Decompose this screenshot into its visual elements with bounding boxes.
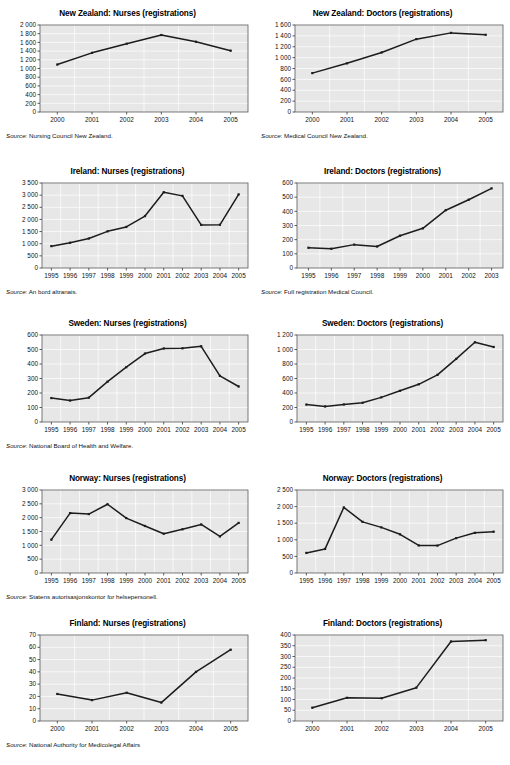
svg-text:2 000: 2 000 — [22, 514, 38, 521]
svg-text:1 000: 1 000 — [277, 536, 293, 543]
svg-text:400: 400 — [282, 389, 293, 396]
svg-text:1996: 1996 — [324, 272, 339, 279]
data-point — [485, 34, 487, 36]
plot-area-finland-nurses: 010203040506070200020012002200320042005 — [4, 631, 251, 739]
svg-text:2001: 2001 — [157, 272, 172, 279]
svg-text:1 000: 1 000 — [22, 542, 38, 549]
svg-text:1 500: 1 500 — [277, 519, 293, 526]
data-point — [230, 50, 232, 52]
chart-title-norway-nurses: Norway: Nurses (registrations) — [4, 465, 251, 486]
plot-new-zealand-doctors: 02004006008001 0001 2001 4001 6002000200… — [259, 21, 509, 130]
svg-text:2003: 2003 — [194, 272, 209, 279]
data-point — [415, 687, 417, 689]
data-point — [163, 533, 165, 535]
svg-text:1999: 1999 — [374, 577, 389, 584]
data-point — [415, 38, 417, 40]
chart-cell-new-zealand-doctors: New Zealand: Doctors (registrations)0200… — [255, 0, 510, 158]
data-point — [181, 347, 183, 349]
svg-text:0: 0 — [287, 717, 291, 724]
data-point — [330, 248, 332, 250]
plot-sweden-doctors: 02004006008001 0001 20019951996199719981… — [259, 331, 509, 440]
data-point — [219, 375, 221, 377]
svg-text:2000: 2000 — [50, 116, 65, 123]
data-point — [307, 247, 309, 249]
svg-text:2004: 2004 — [468, 426, 483, 433]
svg-text:500: 500 — [282, 193, 293, 200]
svg-text:1 000: 1 000 — [22, 240, 38, 247]
svg-text:2003: 2003 — [409, 116, 424, 123]
svg-text:2005: 2005 — [479, 116, 494, 123]
source-value: Full registration Medical Council. — [284, 288, 373, 295]
svg-text:2000: 2000 — [393, 426, 408, 433]
svg-text:1996: 1996 — [63, 272, 78, 279]
svg-text:1 000: 1 000 — [20, 65, 36, 72]
svg-text:0: 0 — [34, 569, 38, 576]
svg-text:1996: 1996 — [318, 577, 333, 584]
svg-text:2000: 2000 — [138, 426, 153, 433]
plot-area-finland-doctors: 0501001502002503003504002000200120022003… — [259, 631, 506, 739]
svg-text:2000: 2000 — [138, 577, 153, 584]
data-point — [490, 187, 492, 189]
svg-text:2001: 2001 — [85, 725, 100, 732]
svg-text:2003: 2003 — [154, 725, 169, 732]
data-point — [343, 506, 345, 508]
svg-text:2005: 2005 — [224, 725, 239, 732]
svg-text:1 800: 1 800 — [20, 30, 36, 37]
svg-text:3 500: 3 500 — [22, 179, 38, 186]
svg-text:2001: 2001 — [412, 426, 427, 433]
data-point — [91, 699, 93, 701]
svg-text:2000: 2000 — [305, 725, 320, 732]
data-point — [125, 226, 127, 228]
plot-new-zealand-nurses: 02004006008001 0001 2001 4001 6001 8002 … — [4, 21, 254, 130]
svg-text:2005: 2005 — [232, 426, 247, 433]
svg-text:2002: 2002 — [462, 272, 477, 279]
data-point — [474, 532, 476, 534]
svg-text:600: 600 — [282, 375, 293, 382]
plot-finland-doctors: 0501001502002503003504002000200120022003… — [259, 631, 509, 739]
source-value: National Board of Health and Welfare. — [29, 442, 133, 449]
source-note-new-zealand-nurses: Source: Nursing Council New Zealand. — [6, 132, 251, 140]
data-point — [381, 51, 383, 53]
svg-text:2004: 2004 — [189, 116, 204, 123]
svg-text:2002: 2002 — [175, 577, 190, 584]
data-point — [50, 539, 52, 541]
svg-text:2005: 2005 — [224, 116, 239, 123]
data-point — [125, 366, 127, 368]
source-note-sweden-nurses: Source: National Board of Health and Wel… — [6, 442, 251, 450]
svg-text:2001: 2001 — [157, 426, 172, 433]
data-point — [69, 242, 71, 244]
svg-text:2001: 2001 — [340, 116, 355, 123]
svg-text:2003: 2003 — [194, 426, 209, 433]
data-point — [238, 385, 240, 387]
data-point — [361, 521, 363, 523]
svg-text:400: 400 — [282, 208, 293, 215]
svg-text:1998: 1998 — [100, 426, 115, 433]
svg-text:2003: 2003 — [194, 577, 209, 584]
svg-text:800: 800 — [280, 65, 291, 72]
svg-text:1998: 1998 — [100, 577, 115, 584]
source-note-new-zealand-doctors: Source: Medical Council New Zealand. — [261, 132, 506, 140]
source-label: Source — [6, 288, 26, 295]
svg-text:200: 200 — [282, 404, 293, 411]
svg-text:2003: 2003 — [154, 116, 169, 123]
svg-text:2002: 2002 — [175, 272, 190, 279]
source-value: An bord altranais. — [29, 288, 78, 295]
data-point — [230, 649, 232, 651]
svg-text:1999: 1999 — [119, 272, 134, 279]
svg-text:2004: 2004 — [189, 725, 204, 732]
svg-text:2002: 2002 — [120, 725, 135, 732]
data-point — [144, 215, 146, 217]
svg-text:1998: 1998 — [355, 577, 370, 584]
svg-text:40: 40 — [29, 668, 37, 675]
data-point — [88, 237, 90, 239]
data-point — [144, 352, 146, 354]
svg-text:2004: 2004 — [213, 272, 228, 279]
data-point — [422, 227, 424, 229]
plot-area-new-zealand-nurses: 02004006008001 0001 2001 4001 6001 8002 … — [4, 21, 251, 130]
data-point — [493, 531, 495, 533]
svg-text:2004: 2004 — [444, 725, 459, 732]
svg-text:2 500: 2 500 — [277, 486, 293, 493]
chart-title-sweden-doctors: Sweden: Doctors (registrations) — [259, 310, 506, 331]
data-point — [200, 345, 202, 347]
chart-title-norway-doctors: Norway: Doctors (registrations) — [259, 465, 506, 486]
